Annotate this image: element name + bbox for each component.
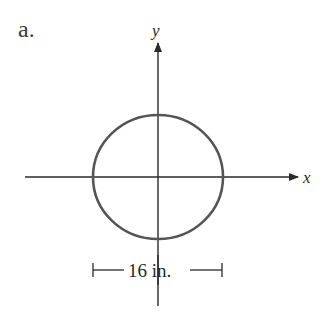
y-axis-label: y bbox=[150, 21, 160, 40]
x-axis-label: x bbox=[302, 168, 311, 187]
dimension-label: 16 in. bbox=[128, 260, 171, 281]
circle-diagram: x y 16 in. bbox=[0, 0, 336, 321]
diameter-dimension: 16 in. bbox=[93, 255, 222, 285]
